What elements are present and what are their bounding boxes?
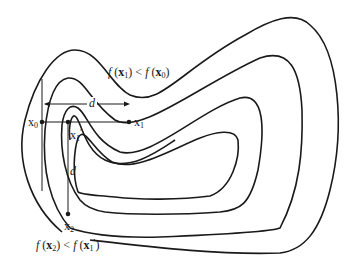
- label-f-x1-lt-f-x0: f (x1) < f (x0): [108, 66, 169, 80]
- label-x2: x2: [64, 220, 74, 234]
- point-x0: [40, 120, 45, 125]
- contour-diagram: [0, 0, 357, 278]
- text-lt: <: [135, 65, 142, 79]
- text-sub: 1: [140, 121, 144, 130]
- arrowhead-right: [124, 102, 130, 107]
- contour-3: [62, 97, 262, 214]
- text-sub: 2: [70, 225, 74, 234]
- text-prime: ′: [80, 127, 82, 137]
- point-x1-prime: [66, 120, 71, 125]
- text-f: f: [145, 65, 148, 79]
- text-sub: 1: [124, 71, 128, 80]
- text-sub: 0: [161, 71, 165, 80]
- text-prime: ′: [93, 237, 95, 247]
- text-f: f: [36, 238, 39, 252]
- text-f: f: [73, 238, 76, 252]
- label-d-vertical: d: [70, 165, 76, 177]
- point-x2: [66, 212, 71, 217]
- label-x1-prime: x1′: [70, 128, 82, 143]
- label-x0: x0: [28, 116, 38, 130]
- label-d-horizontal: d: [87, 97, 97, 109]
- point-x1: [127, 120, 132, 125]
- label-x1: x1: [134, 116, 144, 130]
- label-f-x2-lt-f-x1p: f (x2) < f (x1′): [36, 238, 99, 253]
- arrowhead-left: [44, 102, 50, 107]
- text-sub: 0: [34, 121, 38, 130]
- text-lt: <: [63, 238, 70, 252]
- contour-4: [74, 132, 238, 199]
- text-f: f: [108, 65, 111, 79]
- text-sub: 2: [52, 244, 56, 253]
